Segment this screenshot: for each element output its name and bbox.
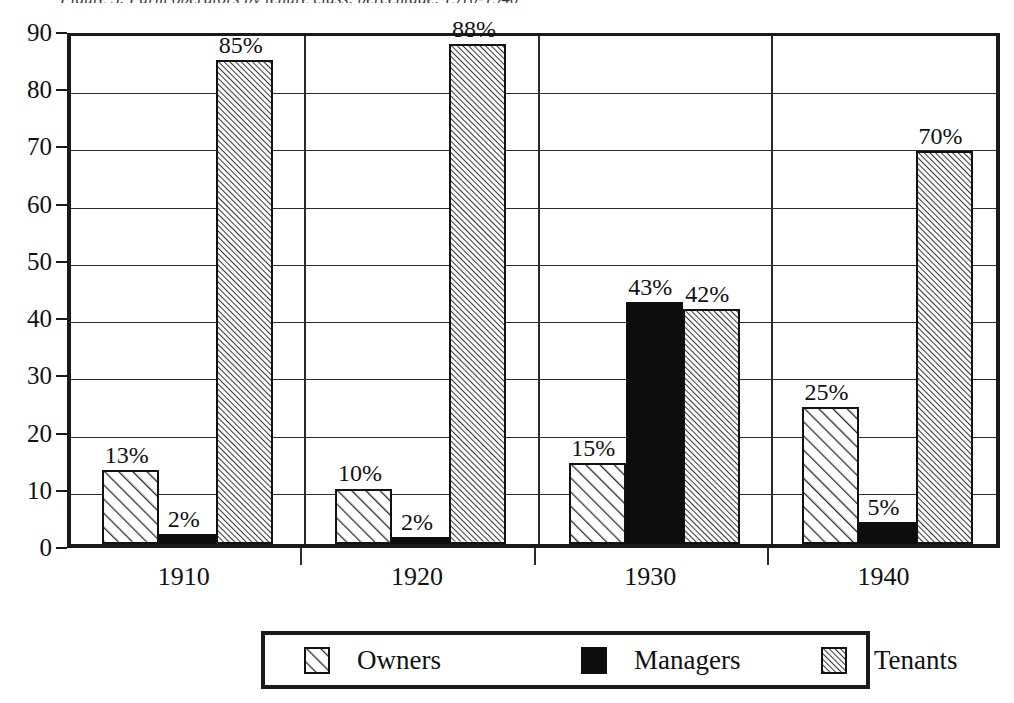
y-axis-tick-label: 50 bbox=[8, 249, 52, 274]
y-axis-tick-label: 80 bbox=[8, 77, 52, 102]
bar-value-label: 42% bbox=[685, 282, 729, 306]
group-separator-tick bbox=[300, 548, 302, 565]
legend-label: Managers bbox=[634, 646, 740, 674]
y-axis-tick-label: 70 bbox=[8, 134, 52, 159]
y-axis: 0102030405060708090 bbox=[0, 0, 52, 703]
bar-value-label: 13% bbox=[105, 443, 149, 467]
bar-owners-1930 bbox=[569, 463, 626, 544]
bar-value-label: 88% bbox=[452, 17, 496, 41]
group-separator-tick bbox=[767, 548, 769, 565]
legend-label: Tenants bbox=[874, 646, 958, 674]
y-axis-tick-label: 30 bbox=[8, 363, 52, 388]
bar-value-label: 85% bbox=[219, 33, 263, 57]
bar-managers-1920 bbox=[392, 537, 449, 544]
bar-value-label: 43% bbox=[628, 275, 672, 299]
group-separator-line bbox=[771, 36, 773, 544]
plot-area bbox=[67, 33, 1000, 548]
y-axis-tick-label: 10 bbox=[8, 478, 52, 503]
legend: OwnersManagersTenants bbox=[261, 631, 870, 689]
grid-line-horizontal bbox=[71, 322, 996, 323]
group-separator-line bbox=[304, 36, 306, 544]
bar-managers-1930 bbox=[626, 302, 683, 544]
legend-item-managers[interactable]: Managers bbox=[581, 646, 740, 674]
x-axis-tick-label: 1920 bbox=[391, 563, 443, 591]
bar-owners-1920 bbox=[335, 489, 392, 545]
bar-tenants-1910 bbox=[216, 60, 273, 544]
bar-value-label: 25% bbox=[804, 380, 848, 404]
x-axis-tick-label: 1910 bbox=[158, 563, 210, 591]
y-axis-tick-label: 20 bbox=[8, 421, 52, 446]
bar-managers-1940 bbox=[859, 522, 916, 544]
group-separator-tick bbox=[534, 548, 536, 565]
bar-value-label: 15% bbox=[571, 436, 615, 460]
x-axis-tick-label: 1940 bbox=[857, 563, 909, 591]
legend-item-tenants[interactable]: Tenants bbox=[821, 646, 958, 674]
y-axis-tick-label: 40 bbox=[8, 306, 52, 331]
grid-line-horizontal bbox=[71, 379, 996, 380]
y-axis-tick-label: 90 bbox=[8, 20, 52, 45]
y-axis-tick-mark bbox=[56, 318, 67, 320]
bar-owners-1910 bbox=[102, 470, 159, 544]
cropped-caption-text: Figure 3. Farm operators by tenure class… bbox=[60, 0, 760, 3]
bar-tenants-1920 bbox=[449, 44, 506, 544]
grid-line-horizontal bbox=[71, 93, 996, 94]
grid-line-horizontal bbox=[71, 208, 996, 209]
bar-value-label: 2% bbox=[401, 510, 433, 534]
legend-item-owners[interactable]: Owners bbox=[304, 646, 441, 674]
x-axis-tick-label: 1930 bbox=[624, 563, 676, 591]
y-axis-tick-mark bbox=[56, 89, 67, 91]
y-axis-tick-mark bbox=[56, 204, 67, 206]
swatch-managers-solid-icon bbox=[581, 647, 607, 674]
bar-value-label: 5% bbox=[867, 495, 899, 519]
y-axis-tick-mark bbox=[56, 261, 67, 263]
y-axis-tick-label: 60 bbox=[8, 192, 52, 217]
bar-tenants-1930 bbox=[683, 309, 740, 544]
y-axis-tick-mark bbox=[56, 490, 67, 492]
legend-label: Owners bbox=[357, 646, 441, 674]
bar-managers-1910 bbox=[159, 534, 216, 544]
y-axis-tick-mark bbox=[56, 146, 67, 148]
bar-value-label: 2% bbox=[168, 507, 200, 531]
y-axis-tick-mark bbox=[56, 547, 67, 549]
y-axis-tick-label: 0 bbox=[8, 535, 52, 560]
group-separator-line bbox=[538, 36, 540, 544]
y-axis-tick-mark bbox=[56, 375, 67, 377]
bar-tenants-1940 bbox=[916, 151, 973, 544]
grid-line-horizontal bbox=[71, 265, 996, 266]
swatch-owners-hatch-icon bbox=[304, 647, 330, 674]
bar-value-label: 70% bbox=[918, 124, 962, 148]
bar-chart-figure: Figure 3. Farm operators by tenure class… bbox=[0, 0, 1014, 703]
bar-value-label: 10% bbox=[338, 461, 382, 485]
swatch-tenants-hatch-icon bbox=[821, 647, 847, 674]
y-axis-tick-mark bbox=[56, 433, 67, 435]
grid-line-horizontal bbox=[71, 150, 996, 151]
bar-owners-1940 bbox=[802, 407, 859, 544]
y-axis-tick-mark bbox=[56, 32, 67, 34]
